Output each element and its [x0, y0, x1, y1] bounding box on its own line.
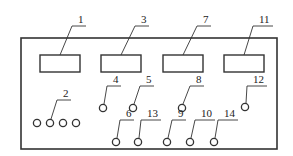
display-7-leader-line: [183, 26, 197, 55]
terminal-13-leader-line: [139, 120, 141, 138]
terminal-14-label: 14: [224, 107, 236, 119]
display-7-label: 7: [203, 13, 209, 25]
display-window-11: [224, 55, 264, 72]
terminal-group-2-label: 2: [63, 87, 69, 99]
display-window-1: [40, 55, 80, 72]
terminal-10-leader-line: [191, 120, 195, 138]
terminal-13-label: 13: [147, 107, 159, 119]
display-window-7: [163, 55, 203, 72]
terminal-circle-icon: [46, 119, 53, 126]
terminal-12-circle-icon: [241, 103, 248, 110]
terminal-13-circle-icon: [134, 138, 141, 145]
terminal-circle-icon: [59, 119, 66, 126]
display-11-label: 11: [259, 13, 270, 25]
terminal-12-label: 12: [253, 73, 264, 85]
terminal-14-leader-line: [215, 120, 218, 138]
terminal-9-circle-icon: [163, 138, 170, 145]
terminal-6-leader-line: [117, 120, 120, 138]
terminal-8-leader-line: [183, 86, 190, 104]
terminal-9-label: 9: [178, 107, 184, 119]
terminal-circle-icon: [33, 119, 40, 126]
terminal-14-circle-icon: [210, 138, 217, 145]
display-11-leader-line: [244, 26, 253, 55]
terminal-10-circle-icon: [186, 138, 193, 145]
terminal-9-leader-line: [168, 120, 172, 138]
terminal-6-circle-icon: [112, 138, 119, 145]
display-3-leader-line: [121, 26, 135, 55]
terminal-group-2-leader-line: [51, 100, 57, 119]
terminal-4-leader-line: [104, 86, 107, 104]
terminal-circle-icon: [72, 119, 79, 126]
terminal-4-label: 4: [113, 73, 119, 85]
terminal-4-circle-icon: [99, 104, 106, 111]
terminal-10-label: 10: [201, 107, 213, 119]
display-1-leader-line: [60, 26, 72, 55]
display-1-label: 1: [78, 13, 84, 25]
terminal-12-leader-line: [246, 86, 247, 103]
terminal-5-leader-line: [134, 86, 140, 104]
terminal-6-label: 6: [126, 107, 132, 119]
terminal-5-label: 5: [146, 73, 152, 85]
display-3-label: 3: [141, 13, 147, 25]
terminal-8-label: 8: [196, 73, 202, 85]
display-window-3: [101, 55, 141, 72]
panel-diagram: 1371124581261391014: [0, 0, 293, 156]
